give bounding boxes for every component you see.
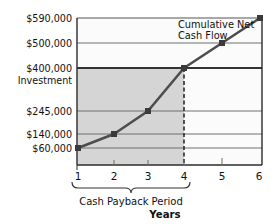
series-annotation-line1: Cumulative Net bbox=[178, 19, 254, 30]
xtick-label-1: 1 bbox=[75, 170, 82, 182]
data-point-year-6 bbox=[257, 15, 263, 21]
xtick-label-5: 5 bbox=[219, 170, 226, 182]
xtick-label-6: 6 bbox=[256, 170, 263, 182]
xtick-label-4: 4 bbox=[181, 170, 188, 182]
ytick-label-140000: $140,000 bbox=[26, 129, 72, 140]
data-point-year-1 bbox=[75, 145, 81, 151]
payback-period-label: Cash Payback Period bbox=[79, 196, 183, 207]
payback-shaded-region bbox=[77, 68, 184, 165]
data-point-year-2 bbox=[111, 131, 117, 137]
xtick-label-2: 2 bbox=[111, 170, 118, 182]
xtick-label-3: 3 bbox=[145, 170, 152, 182]
investment-label: Investment bbox=[18, 75, 73, 86]
x-axis-title: Years bbox=[148, 209, 180, 220]
data-point-year-4 bbox=[181, 65, 187, 71]
payback-period-brace bbox=[72, 182, 190, 193]
chart-svg: $590,000 $500,000 $400,000 Investment $2… bbox=[0, 0, 278, 224]
series-annotation-line2: Cash Flow bbox=[178, 30, 228, 41]
cumulative-cash-flow-chart: $590,000 $500,000 $400,000 Investment $2… bbox=[0, 0, 278, 224]
ytick-label-400000: $400,000 bbox=[26, 63, 72, 74]
data-point-year-3 bbox=[145, 108, 151, 114]
ytick-label-245000: $245,000 bbox=[26, 106, 72, 117]
ytick-label-60000: $60,000 bbox=[32, 143, 72, 154]
ytick-label-590000: $590,000 bbox=[26, 13, 72, 24]
ytick-label-500000: $500,000 bbox=[26, 38, 72, 49]
